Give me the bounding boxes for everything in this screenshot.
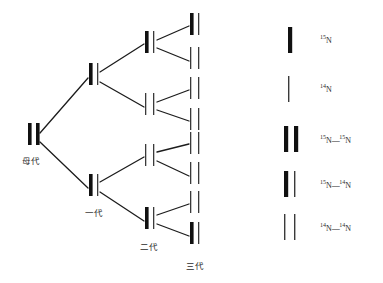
connector-line (157, 204, 189, 215)
dna-molecule-gen3-1 (190, 13, 199, 35)
strand-bar-left (190, 13, 194, 35)
strand-bar-left (89, 63, 93, 85)
strand-bar-left (28, 123, 32, 145)
generation-label-gen2: 二代 (140, 240, 159, 252)
dna-molecule-gen3-6 (190, 162, 199, 184)
legend-element: N (345, 181, 351, 190)
strand-bar-right (198, 108, 199, 130)
connector-lines-group (40, 26, 189, 236)
legend-swatch-pair-light-light (284, 214, 295, 240)
strand-bar-left (145, 144, 146, 166)
legend-bar (294, 126, 298, 152)
dna-molecule-gen3-4 (190, 108, 199, 130)
connector-line (40, 142, 88, 188)
strand-bar-left (145, 207, 149, 229)
strand-bar-right (198, 191, 199, 213)
dna-molecule-gen3-8 (190, 222, 199, 244)
strand-bar-left (190, 132, 191, 154)
legend-swatch-pair-heavy-light (284, 171, 295, 197)
legend-label-14n: 14N (320, 85, 332, 94)
strand-bar-left (190, 222, 194, 244)
legend-element: N (326, 85, 332, 94)
legend-label-14n-14n: 14N—14N (320, 224, 351, 233)
connector-line (100, 192, 144, 221)
dna-molecule-gen3-7 (190, 191, 199, 213)
strand-bar-left (190, 77, 191, 99)
legend-bar (288, 76, 289, 102)
strand-bar-left (145, 31, 149, 53)
connector-line (157, 90, 189, 102)
connector-line (100, 44, 144, 72)
legend-swatch-single-heavy (288, 27, 292, 53)
legend-label-15n-14n: 15N—14N (320, 181, 351, 190)
strand-bar-left (190, 108, 191, 130)
generation-label-gen1: 一代 (85, 206, 104, 218)
dna-molecule-gen1-1 (89, 63, 98, 85)
strand-bar-right (97, 174, 98, 196)
connector-line (157, 224, 189, 236)
connector-line (157, 161, 189, 176)
dna-molecule-gen2-3 (145, 144, 154, 166)
dna-molecule-gen1-2 (89, 174, 98, 196)
legend-element: N (326, 36, 332, 45)
legend-element: N (345, 136, 351, 145)
strand-bar-left (190, 47, 191, 69)
dna-molecule-gen3-5 (190, 132, 199, 154)
connector-line (157, 110, 189, 121)
strand-bar-right (153, 93, 154, 115)
legend-bars-group (284, 27, 298, 240)
dna-molecule-gen2-2 (145, 93, 154, 115)
strand-bar-right (198, 132, 199, 154)
strand-bar-right (153, 144, 154, 166)
strand-bar-right (198, 13, 199, 35)
legend-label-15n: 15N (320, 36, 332, 45)
legend-element: N (345, 224, 351, 233)
connector-line (100, 82, 144, 107)
strand-bar-right (97, 63, 98, 85)
dna-molecule-parent-1 (28, 123, 40, 145)
legend-label-15n-15n: 15N—15N (320, 136, 351, 145)
replication-diagram-figure: 母代 一代 二代 三代 15N 14N 15N—15N 15N—14N 14N—… (0, 0, 383, 283)
dna-molecule-gen2-1 (145, 31, 154, 53)
connector-line (157, 48, 189, 61)
legend-swatch-single-light (288, 76, 289, 102)
strand-bar-left (190, 162, 191, 184)
legend-bar (294, 171, 295, 197)
strand-bar-right (198, 222, 199, 244)
generation-label-gen3: 三代 (186, 259, 205, 271)
connector-line (157, 144, 189, 152)
connector-line (100, 157, 144, 182)
strand-bar-right (153, 31, 154, 53)
connector-line (157, 26, 189, 40)
strand-bar-right (198, 162, 199, 184)
dna-molecule-gen2-4 (145, 207, 154, 229)
legend-bar (294, 214, 295, 240)
strand-bar-left (145, 93, 146, 115)
legend-bar (284, 126, 288, 152)
legend-bar (284, 171, 288, 197)
dna-molecule-gen3-2 (190, 47, 199, 69)
connector-line (40, 78, 88, 133)
legend-bar (288, 27, 292, 53)
dna-molecule-gen3-3 (190, 77, 199, 99)
strand-bar-right (198, 77, 199, 99)
strand-bar-left (190, 191, 191, 213)
legend-swatch-pair-heavy-heavy (284, 126, 298, 152)
strand-bar-right (153, 207, 154, 229)
legend-bar (284, 214, 285, 240)
strand-bar-right (198, 47, 199, 69)
generation-label-parent: 母代 (22, 154, 41, 166)
strand-bar-right (36, 123, 40, 145)
strand-bar-left (89, 174, 93, 196)
